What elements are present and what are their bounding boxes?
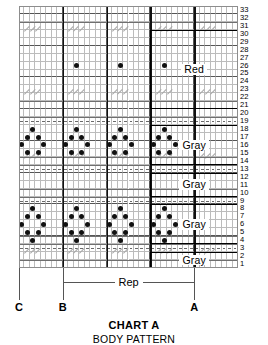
- row-number: 17: [240, 133, 248, 141]
- row-number: 15: [240, 149, 248, 157]
- row-number: 25: [240, 69, 248, 77]
- rep-label: Rep: [115, 276, 143, 288]
- chart-subtitle: BODY PATTERN: [0, 333, 268, 345]
- row-number: 10: [240, 189, 248, 197]
- row-number: 8: [240, 204, 244, 212]
- rep-tick-left: [63, 282, 64, 288]
- color-box-gray-4: Gray: [150, 252, 238, 268]
- row-number: 22: [240, 93, 248, 101]
- row-number: 12: [240, 173, 248, 181]
- row-number: 26: [240, 62, 248, 70]
- color-box-red-0: Red: [150, 30, 238, 109]
- row-number: 20: [240, 109, 248, 117]
- row-number: 4: [240, 236, 244, 244]
- row-number: 21: [240, 101, 248, 109]
- row-number: 7: [240, 212, 244, 220]
- rep-tick-right: [194, 277, 195, 283]
- row-number: 28: [240, 46, 248, 54]
- row-number: 14: [240, 157, 248, 165]
- color-box-label: Gray: [179, 219, 209, 230]
- chart-title: CHART A: [0, 319, 268, 331]
- row-number: 32: [240, 14, 248, 22]
- marker-label-c: C: [15, 301, 23, 313]
- row-number: 13: [240, 165, 248, 173]
- row-number: 19: [240, 117, 248, 125]
- row-number-column: 1234567891011121314151617181920212223242…: [240, 6, 266, 268]
- row-number: 23: [240, 85, 248, 93]
- row-number: 16: [240, 141, 248, 149]
- color-box-gray-3: Gray: [150, 204, 238, 244]
- color-callout-boxes: RedGrayGrayGrayGray: [19, 6, 238, 268]
- marker-leader-c: [19, 268, 20, 300]
- row-number: 30: [240, 30, 248, 38]
- row-number: 29: [240, 38, 248, 46]
- row-number: 6: [240, 220, 244, 228]
- color-box-label: Gray: [179, 179, 209, 190]
- color-box-label: Gray: [179, 140, 209, 151]
- row-number: 9: [240, 197, 244, 205]
- row-number: 27: [240, 54, 248, 62]
- row-number: 33: [240, 6, 248, 14]
- row-number: 1: [240, 260, 244, 268]
- marker-label-a: A: [190, 301, 198, 313]
- row-number: 24: [240, 77, 248, 85]
- row-number: 31: [240, 22, 248, 30]
- color-box-gray-2: Gray: [150, 173, 238, 197]
- row-number: 5: [240, 228, 244, 236]
- marker-leader-a: [194, 268, 195, 300]
- knitting-chart-grid: RedGrayGrayGrayGray: [19, 6, 238, 268]
- row-number: 18: [240, 125, 248, 133]
- marker-label-b: B: [59, 301, 67, 313]
- color-box-gray-1: Gray: [150, 125, 238, 165]
- row-number: 2: [240, 252, 244, 260]
- color-box-label: Gray: [179, 255, 209, 266]
- row-number: 11: [240, 181, 248, 189]
- color-box-label: Red: [181, 64, 207, 75]
- row-number: 3: [240, 244, 244, 252]
